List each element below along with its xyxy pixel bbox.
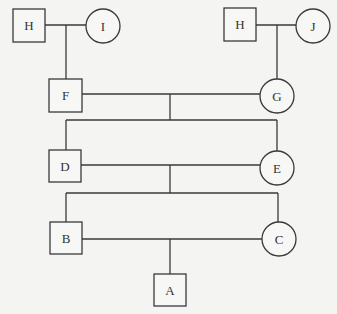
node-label: J [310, 19, 315, 34]
node-g: G [260, 79, 294, 113]
node-h-left: H [13, 9, 45, 42]
node-label: B [62, 231, 71, 246]
node-label: F [62, 88, 69, 103]
node-label: H [24, 18, 33, 33]
pedigree-svg: H I H J F G D E B [0, 0, 337, 314]
node-label: G [272, 89, 281, 104]
node-label: C [275, 232, 284, 247]
node-f: F [49, 79, 82, 112]
node-c: C [262, 222, 296, 256]
node-a: A [154, 274, 186, 306]
node-d: D [49, 150, 81, 182]
node-i: I [86, 9, 120, 43]
node-h-right: H [224, 8, 256, 41]
node-label: H [235, 17, 244, 32]
node-label: A [165, 283, 175, 298]
node-b: B [50, 222, 82, 254]
node-label: I [101, 19, 105, 34]
node-j: J [296, 9, 330, 43]
node-e: E [260, 151, 294, 185]
node-label: E [273, 161, 281, 176]
pedigree-diagram: H I H J F G D E B [0, 0, 337, 314]
node-label: D [60, 159, 69, 174]
